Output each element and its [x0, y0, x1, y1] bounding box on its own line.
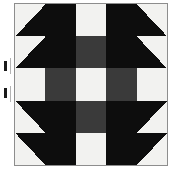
patch-r3-c1-light [15, 68, 46, 101]
patch-r4-c3-gray [76, 101, 107, 134]
edge-hairline-upper [10, 58, 11, 74]
quilt-block-figure [0, 0, 181, 177]
patch-r4-c2-dark [45, 101, 76, 134]
patch-r5-c3-light [76, 133, 107, 165]
patch-r4-c4-dark [106, 101, 137, 134]
patch-r3-c4-gray [106, 68, 137, 101]
quilt-block-canvas [15, 4, 167, 165]
quilt-block-frame [14, 3, 168, 166]
patch-r2-c4-dark [106, 36, 137, 69]
patch-r2-c2-dark [45, 36, 76, 69]
patch-r3-c5-light [137, 68, 167, 101]
patch-layer [15, 4, 167, 165]
patch-r1-c3-light [76, 4, 107, 37]
patch-r3-c2-gray [45, 68, 76, 101]
patch-r3-c3-light [76, 68, 107, 101]
patch-r2-c3-gray [76, 36, 107, 69]
edge-hairline-lower [10, 86, 11, 102]
edge-tick-upper-marker [4, 61, 7, 71]
edge-tick-lower-marker [4, 88, 7, 98]
